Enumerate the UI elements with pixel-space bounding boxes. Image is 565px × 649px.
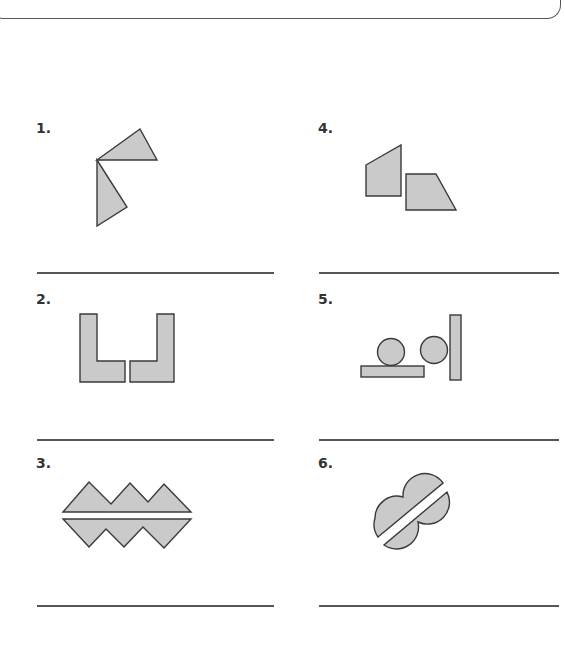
figure-2-l-shapes bbox=[80, 314, 174, 382]
figure-1-triangles bbox=[97, 129, 157, 226]
figure-4-quadrilaterals bbox=[366, 145, 456, 210]
figure-3-zigzags bbox=[63, 482, 191, 548]
figure-5-circles-rectangles bbox=[361, 315, 461, 380]
figures-canvas bbox=[0, 0, 565, 649]
figure-6-split-circles bbox=[374, 474, 449, 549]
